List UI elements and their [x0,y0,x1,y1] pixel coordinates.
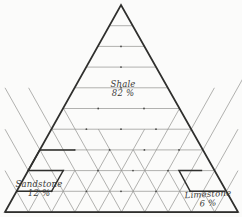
shale-percent: 82 % [99,89,147,98]
ternary-diagram-figure: Shale 82 % Sandstone 12 % Limestone 6 % [0,0,242,217]
grid-vertex-dots [51,46,191,193]
limestone-percent: 6 % [178,197,238,209]
sandstone-region-label: Sandstone 12 % [8,180,70,198]
shale-region-label: Shale 82 % [99,80,147,98]
grid-lines-horizontal [17,26,226,192]
sandstone-percent: 12 % [8,189,70,198]
limestone-region-label: Limestone 6 % [178,190,238,208]
